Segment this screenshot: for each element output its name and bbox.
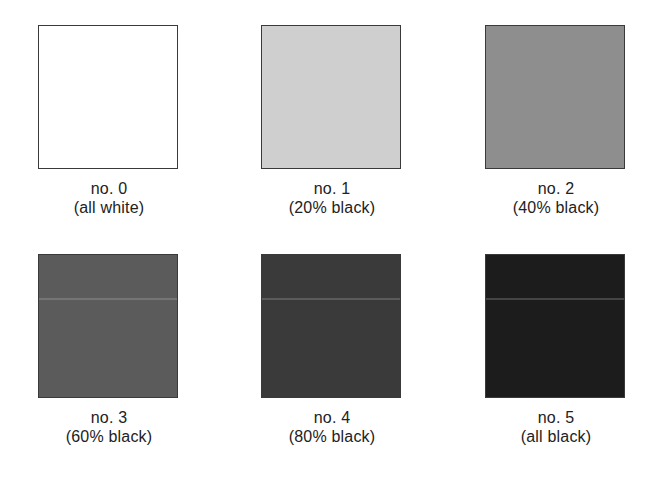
swatch-item-4: no. 4 (80% black) (261, 254, 403, 446)
swatch-number: no. 4 (261, 408, 403, 427)
swatch-description: (all white) (38, 198, 180, 217)
swatch-box (261, 254, 401, 398)
swatch-caption: no. 4 (80% black) (261, 408, 403, 446)
swatch-caption: no. 0 (all white) (38, 179, 180, 217)
swatch-item-1: no. 1 (20% black) (261, 25, 403, 217)
swatch-box (38, 25, 178, 169)
swatch-description: (20% black) (261, 198, 403, 217)
swatch-caption: no. 2 (40% black) (485, 179, 627, 217)
swatch-box (485, 254, 625, 398)
swatch-item-0: no. 0 (all white) (38, 25, 180, 217)
seam-line (262, 298, 400, 300)
swatch-item-3: no. 3 (60% black) (38, 254, 180, 446)
seam-line (39, 298, 177, 300)
swatch-box (261, 25, 401, 169)
swatch-caption: no. 1 (20% black) (261, 179, 403, 217)
swatch-number: no. 0 (38, 179, 180, 198)
swatch-caption: no. 3 (60% black) (38, 408, 180, 446)
seam-line (486, 298, 624, 300)
swatch-number: no. 3 (38, 408, 180, 427)
swatch-description: (all black) (485, 427, 627, 446)
swatch-description: (60% black) (38, 427, 180, 446)
swatch-box (38, 254, 178, 398)
swatch-box (485, 25, 625, 169)
swatch-item-5: no. 5 (all black) (485, 254, 627, 446)
swatch-caption: no. 5 (all black) (485, 408, 627, 446)
swatch-number: no. 1 (261, 179, 403, 198)
swatch-item-2: no. 2 (40% black) (485, 25, 627, 217)
swatch-number: no. 5 (485, 408, 627, 427)
swatch-description: (40% black) (485, 198, 627, 217)
swatch-number: no. 2 (485, 179, 627, 198)
swatch-description: (80% black) (261, 427, 403, 446)
